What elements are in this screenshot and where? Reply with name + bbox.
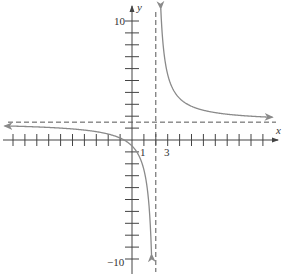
rational-function-graph: x y 1 3 10 −10: [0, 0, 282, 278]
x-tick-label-3: 3: [164, 146, 170, 158]
axes: [3, 6, 278, 274]
y-axis-label: y: [136, 1, 142, 13]
x-tick-label-1: 1: [140, 146, 146, 158]
y-tick-label-neg10: −10: [107, 256, 125, 268]
right-branch: [161, 9, 273, 117]
x-axis-label: x: [275, 124, 281, 136]
function-curves: [5, 9, 273, 255]
y-tick-label-10: 10: [114, 15, 126, 27]
